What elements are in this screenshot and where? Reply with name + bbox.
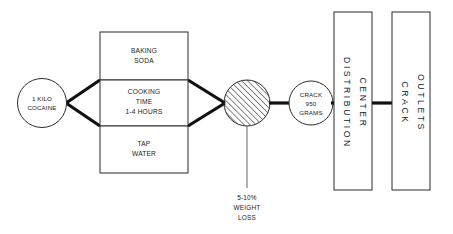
distribution-center-box: DISTRIBUTION CENTER: [334, 12, 372, 190]
crack-outlets-box: CRACK OUTLETS: [392, 12, 430, 190]
center-label: CENTER: [358, 78, 368, 129]
ingredient-bottom-line-2: WATER: [132, 150, 156, 157]
distribution-label: DISTRIBUTION: [342, 57, 352, 149]
loss-note-line-2: WEIGHT: [234, 204, 261, 211]
output-circle-line-1: CRACK: [300, 91, 323, 98]
output-circle-node: CRACK 950 GRAMS: [289, 81, 333, 125]
ingredient-bottom-line-1: TAP: [138, 140, 151, 147]
ingredient-bottom-box: TAP WATER: [100, 126, 188, 173]
input-circle-line-1: 1 KILO: [32, 95, 52, 102]
input-circle-node: 1 KILO COCAINE: [18, 79, 67, 128]
process-circle-node: [224, 80, 270, 126]
input-circle-line-2: COCAINE: [27, 104, 56, 111]
ingredient-top-box: BAKING SODA: [100, 32, 188, 80]
output-circle-line-3: GRAMS: [299, 109, 322, 116]
loss-note-line-1: 5-10%: [237, 194, 257, 201]
diagram-canvas: BAKING SODA COOKING TIME 1-4 HOURS TAP W…: [0, 0, 453, 234]
ingredient-middle-line-2: TIME: [136, 98, 153, 105]
crack-outlets-label-outlets: OUTLETS: [416, 74, 426, 132]
crack-outlets-label-crack: CRACK: [400, 81, 410, 124]
flow-diagram: BAKING SODA COOKING TIME 1-4 HOURS TAP W…: [0, 0, 453, 234]
loss-note-line-3: LOSS: [238, 214, 256, 221]
ingredient-middle-box: COOKING TIME 1-4 HOURS: [100, 80, 188, 126]
ingredient-top-line-2: SODA: [134, 57, 154, 64]
ingredient-top-line-1: BAKING: [131, 47, 157, 54]
weight-loss-callout: 5-10% WEIGHT LOSS: [234, 126, 261, 221]
output-circle-line-2: 950: [306, 100, 317, 107]
ingredient-middle-line-1: COOKING: [128, 88, 161, 95]
ingredient-middle-line-3: 1-4 HOURS: [126, 108, 163, 115]
